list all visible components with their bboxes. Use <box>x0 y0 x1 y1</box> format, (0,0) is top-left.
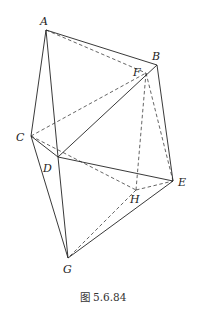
edge-ab <box>46 30 157 65</box>
edge-de <box>58 157 173 181</box>
hidden-edge-fh <box>136 73 146 190</box>
geometry-figure: ABCDEFGH 图 5.6.84 <box>0 0 199 318</box>
vertex-labels-group: ABCDEFGH <box>16 15 186 276</box>
edge-be <box>157 65 173 181</box>
edge-cd <box>31 136 58 157</box>
vertex-label-a: A <box>39 15 48 28</box>
vertex-label-b: B <box>151 50 160 63</box>
figure-caption: 图 5.6.84 <box>80 291 127 303</box>
vertex-label-c: C <box>16 131 25 144</box>
edge-ad <box>46 30 58 157</box>
edge-ac <box>31 30 46 136</box>
hidden-edge-cf <box>31 73 146 136</box>
edge-cg <box>31 136 68 258</box>
edge-eg <box>68 181 173 258</box>
vertex-label-g: G <box>63 263 72 276</box>
hidden-edge-hg <box>68 190 136 258</box>
vertex-label-d: D <box>42 162 52 175</box>
vertex-label-f: F <box>132 66 141 79</box>
edges-group <box>31 30 173 258</box>
hidden-edge-fe <box>146 73 173 181</box>
edge-bd <box>58 65 157 157</box>
vertex-label-e: E <box>177 176 186 189</box>
vertex-label-h: H <box>129 193 140 206</box>
hidden-edge-af <box>46 30 146 73</box>
